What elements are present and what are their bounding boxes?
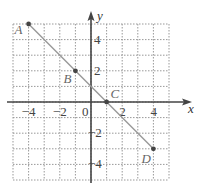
y-tick-label: 4 [94,32,101,47]
y-tick-label: 2 [94,63,101,78]
x-tick-label: −2 [53,104,67,119]
point-label-a: A [14,22,23,37]
point-label-d: D [140,151,151,166]
y-tick-label: −2 [88,125,102,140]
x-axis-label: x [187,101,194,116]
coordinate-plane: xy −4−202442−2−4 ABCD [0,0,197,187]
x-tick-label: 2 [119,104,126,119]
x-tick-label: 4 [150,104,157,119]
point-b [73,68,78,73]
points: ABCD [14,22,156,166]
y-axis-label: y [95,8,103,23]
point-d [151,146,156,151]
x-tick-label: 0 [82,104,89,119]
x-tick-label: −4 [22,104,36,119]
y-tick-label: −4 [88,156,102,171]
point-a [26,22,31,27]
point-label-b: B [63,71,71,86]
point-c [104,100,109,105]
point-label-c: C [111,86,120,101]
